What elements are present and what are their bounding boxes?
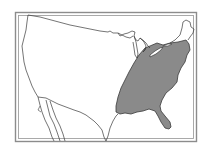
northern-border [28, 15, 150, 48]
baja-gulf-coast [46, 100, 60, 141]
texas-gulf-coast [106, 114, 118, 141]
new-england-border [170, 20, 194, 43]
mexico-border [38, 97, 106, 141]
us-map [0, 0, 210, 149]
west-coast [22, 15, 38, 97]
